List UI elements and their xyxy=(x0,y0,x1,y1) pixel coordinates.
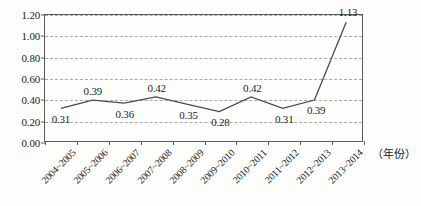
x-tick-mark xyxy=(109,141,110,145)
x-tick-mark xyxy=(364,141,365,145)
x-tick-mark xyxy=(205,141,206,145)
data-point-label: 0.28 xyxy=(211,116,229,128)
y-tick-label: 0.20 xyxy=(22,116,40,128)
data-point-label: 0.31 xyxy=(275,113,293,125)
x-tick-mark xyxy=(141,141,142,145)
x-tick-mark xyxy=(268,141,269,145)
x-tick-mark xyxy=(236,141,237,145)
series-polyline xyxy=(61,22,346,111)
data-point-label: 0.42 xyxy=(147,82,165,94)
x-axis-title: （年份） xyxy=(372,145,416,161)
x-tick-mark xyxy=(173,141,174,145)
data-point-label: 1.13 xyxy=(339,6,357,18)
y-tick-label: 1.20 xyxy=(22,9,40,21)
data-point-label: 0.36 xyxy=(116,108,134,120)
x-tick-mark xyxy=(300,141,301,145)
data-point-label: 0.39 xyxy=(307,104,325,116)
x-tick-mark xyxy=(77,141,78,145)
plot-area: 0.000.200.400.600.801.001.20 2004~200520… xyxy=(44,14,363,142)
y-tick-label: 0.80 xyxy=(22,52,40,64)
x-axis-label: 2012~2013 xyxy=(294,147,333,186)
x-tick-mark xyxy=(332,141,333,145)
y-tick-label: 0.60 xyxy=(22,73,40,85)
data-point-label: 0.39 xyxy=(84,85,102,97)
data-point-label: 0.42 xyxy=(243,82,261,94)
x-tick-mark xyxy=(45,141,46,145)
data-point-label: 0.31 xyxy=(52,113,70,125)
y-tick-label: 0.00 xyxy=(22,137,40,149)
data-point-label: 0.35 xyxy=(179,109,197,121)
x-axis-label: 2004~2005 xyxy=(39,147,78,186)
y-tick-label: 1.00 xyxy=(22,30,40,42)
x-axis-label: 2010~2011 xyxy=(231,147,269,185)
y-tick-label: 0.40 xyxy=(22,94,40,106)
chart-figure: 0.000.200.400.600.801.001.20 2004~200520… xyxy=(0,0,421,206)
line-series xyxy=(45,15,362,141)
